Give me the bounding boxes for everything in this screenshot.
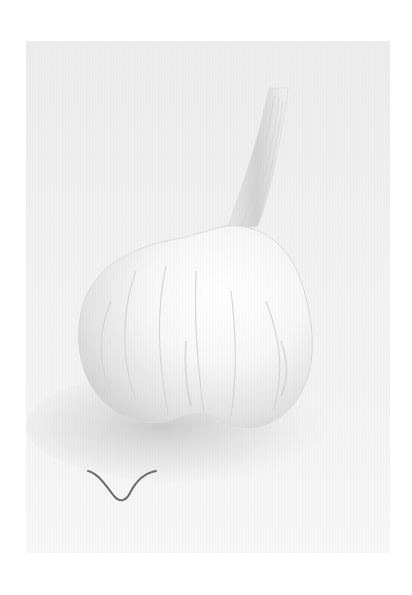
garlic-illustration [26, 41, 390, 553]
garlic-stem [226, 88, 288, 231]
garlic-photo [26, 41, 390, 553]
